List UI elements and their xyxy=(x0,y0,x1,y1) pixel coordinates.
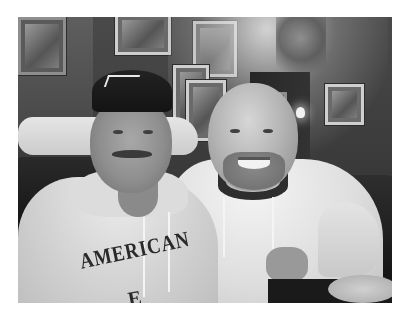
left-person-mustache xyxy=(112,150,152,158)
plate xyxy=(328,275,392,303)
eye xyxy=(113,130,123,134)
wall-frame xyxy=(18,17,66,75)
right-person-arm xyxy=(318,202,380,277)
right-person-hand xyxy=(266,247,308,282)
wall-frame xyxy=(115,17,171,55)
eye xyxy=(143,130,153,134)
right-person-smile xyxy=(238,157,270,169)
photograph: AMERICAN E xyxy=(18,17,392,303)
wall-lamp xyxy=(296,107,305,118)
drawstring xyxy=(272,197,274,252)
eye xyxy=(230,129,240,133)
eye xyxy=(263,129,273,133)
wall-frame xyxy=(325,84,364,125)
cap-logo xyxy=(104,75,140,87)
drawstring xyxy=(223,197,225,257)
